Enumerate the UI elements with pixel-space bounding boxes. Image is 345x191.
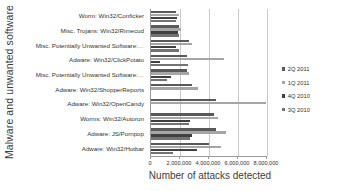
legend-item: 2Q 2011 [282,66,340,72]
x-axis-tick [150,156,151,159]
bar [151,25,179,27]
y-axis-tick-label: Worm: Win32/Conficker [20,9,147,24]
bar [151,58,224,60]
bar [151,20,176,22]
bar-group [151,38,266,53]
y-axis-tick-label: Misc. Potentially Unwanted Software:… [20,68,147,83]
bar [151,55,187,57]
bar [151,128,216,130]
y-axis-tick-label: Misc. Potentially Unwanted Software:… [20,38,147,53]
bar [151,11,176,13]
x-axis-tick-label: 0 [148,160,151,166]
bar [151,102,266,104]
y-axis-tick-label: Adware: Win32/ClickPotato [20,53,147,68]
bar [151,61,160,63]
bar [151,76,171,78]
bar [151,28,181,30]
legend: 2Q 20111Q 20114Q 20103Q 2010 [282,66,340,120]
y-axis-title-text: Malware and unwanted software [3,4,15,158]
bar [151,152,173,154]
bar-group [151,83,266,98]
legend-item: 1Q 2011 [282,80,340,86]
y-axis-tick-label: Worms: Win32/Autorun [20,112,147,127]
bar-chart: Malware and unwanted software Worm: Win3… [0,0,345,191]
x-axis-tick-label: 6,000,000 [225,160,250,166]
legend-swatch-icon [282,67,285,70]
y-axis-tick-label: Adware: Win32/Hotbar [20,141,147,156]
legend-item: 4Q 2010 [282,93,340,99]
x-axis-tick [266,156,267,159]
bar-group [151,53,266,68]
bar [151,113,214,115]
bar [151,146,221,148]
legend-swatch-icon [282,108,285,111]
x-axis-tick-label: 2,000,000 [167,160,192,166]
bar [151,79,167,81]
x-axis-tick-labels: 02,000,0004,000,0006,000,0008,000,000 [140,160,280,169]
gridline [267,9,268,156]
y-axis-tick-label: Adware: Win32/OpenCandy [20,97,147,112]
bar-group [151,97,266,112]
y-axis-title: Malware and unwanted software [0,0,18,163]
x-axis-tick [179,156,180,159]
bar-group [151,112,266,127]
bar-group [151,127,266,142]
bar [151,17,177,19]
bar [151,72,189,74]
bar [151,34,179,36]
y-axis-tick-labels: Worm: Win32/ConfickerMisc. Trojans: Win3… [20,9,147,156]
bar [151,99,216,101]
bar-group [151,68,266,83]
bar [151,43,192,45]
bar [151,46,176,48]
x-axis-tick [237,156,238,159]
y-axis-tick-label: Adware: Win32/ShopperReports [20,83,147,98]
plot-area [150,9,266,156]
bar [151,131,226,133]
bar [151,49,179,51]
legend-label: 1Q 2011 [288,80,310,86]
bar [151,87,198,89]
bar-group [151,24,266,39]
legend-item: 3Q 2010 [282,107,340,113]
bar [151,64,188,66]
bar [151,134,192,136]
legend-label: 4Q 2010 [288,93,310,99]
bar [151,137,190,139]
legend-label: 3Q 2010 [288,107,310,113]
bar [151,149,197,151]
bar [151,31,178,33]
legend-label: 2Q 2011 [288,66,310,72]
bar [151,14,179,16]
bar [151,143,209,145]
bar [151,123,189,125]
y-axis-tick-label: Adware: JS/Pornpop [20,127,147,142]
bar-groups [151,9,266,156]
legend-swatch-icon [282,81,285,84]
bar-group [151,9,266,24]
bar [151,120,190,122]
bar [151,117,218,119]
x-axis-tick [208,156,209,159]
bar [151,40,189,42]
bar [151,84,192,86]
bar [151,69,187,71]
x-axis-tick-label: 8,000,000 [254,160,279,166]
x-axis-tick-label: 4,000,000 [196,160,221,166]
bar-group [151,141,266,156]
legend-swatch-icon [282,94,285,97]
y-axis-tick-label: Misc. Trojans: Win32/Rimecud [20,24,147,39]
x-axis-title: Number of attacks detected [120,170,300,181]
